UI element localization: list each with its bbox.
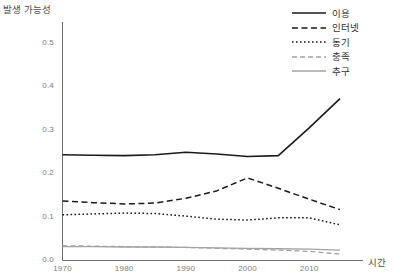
x-tick-label: 2000 — [231, 264, 265, 273]
y-axis-title: 발생 가능성 — [3, 2, 51, 16]
y-tick-label: 0.2 — [30, 168, 54, 177]
legend-item-label: 동기 — [332, 38, 350, 48]
chart-figure: 발생 가능성 시간 0.50.40.30.20.10.0 19701980199… — [0, 0, 395, 279]
series-line-1 — [63, 178, 341, 210]
legend-line-swatch-icon — [292, 66, 326, 76]
legend-item[interactable]: 추구 — [292, 64, 392, 79]
x-tick-label: 1980 — [107, 264, 141, 273]
chart-legend: 이용인터넷동기충족추구 — [292, 6, 392, 79]
series-group — [63, 99, 341, 254]
x-tick-label: 1970 — [46, 264, 80, 273]
legend-item-label: 추구 — [332, 67, 350, 77]
legend-item-label: 이용 — [332, 9, 350, 19]
legend-line-swatch-icon — [292, 23, 326, 33]
series-line-0 — [63, 99, 341, 157]
x-tick-label: 2010 — [292, 264, 326, 273]
x-tick-label: 1990 — [169, 264, 203, 273]
legend-item[interactable]: 인터넷 — [292, 21, 392, 36]
legend-item[interactable]: 동기 — [292, 35, 392, 50]
legend-line-swatch-icon — [292, 8, 326, 18]
y-tick-label: 0.4 — [30, 81, 54, 90]
legend-line-swatch-icon — [292, 37, 326, 47]
legend-line-swatch-icon — [292, 52, 326, 62]
legend-item-label: 인터넷 — [332, 23, 359, 33]
legend-item-label: 충족 — [332, 52, 350, 62]
y-tick-label: 0.5 — [30, 38, 54, 47]
y-tick-label: 0.0 — [30, 255, 54, 264]
legend-item[interactable]: 충족 — [292, 50, 392, 65]
x-axis-title: 시간 — [368, 255, 386, 269]
y-tick-label: 0.1 — [30, 212, 54, 221]
series-line-2 — [63, 213, 341, 225]
y-tick-label: 0.3 — [30, 125, 54, 134]
legend-item[interactable]: 이용 — [292, 6, 392, 21]
